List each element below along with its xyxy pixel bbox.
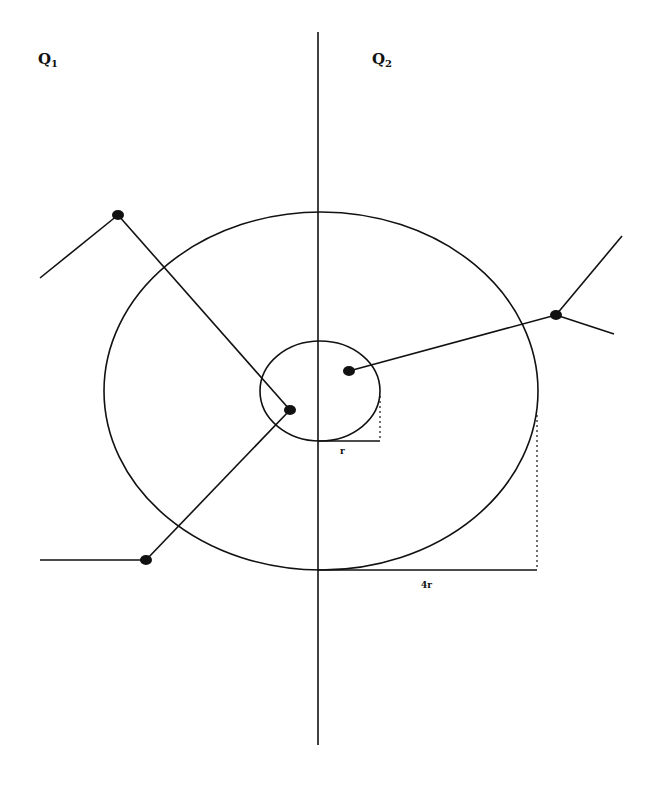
- quadrant-label-q2: Q2: [372, 50, 392, 69]
- edge-line: [556, 315, 614, 334]
- quadrant-circles-diagram: [0, 0, 648, 790]
- node-dot: [284, 405, 296, 415]
- edges-group: [40, 215, 622, 560]
- inner-circle: [260, 341, 380, 441]
- edge-line: [118, 215, 290, 410]
- edge-line: [349, 315, 556, 371]
- node-dot: [140, 555, 152, 565]
- inner-radius-label: r: [340, 446, 345, 456]
- quadrant-label-q1: Q1: [38, 50, 58, 69]
- q2-subscript: 2: [385, 58, 392, 69]
- radius-markers: [318, 396, 537, 570]
- q2-letter: Q: [372, 50, 385, 68]
- outer-circle: [104, 212, 538, 570]
- q1-subscript: 1: [51, 58, 58, 69]
- edge-line: [40, 215, 118, 278]
- q1-letter: Q: [38, 50, 51, 68]
- edge-line: [146, 410, 290, 560]
- outer-radius-label: 4r: [421, 580, 432, 590]
- node-dot: [112, 210, 124, 220]
- edge-line: [556, 236, 622, 315]
- node-dot: [550, 310, 562, 320]
- node-dot: [343, 366, 355, 376]
- nodes-group: [112, 210, 562, 565]
